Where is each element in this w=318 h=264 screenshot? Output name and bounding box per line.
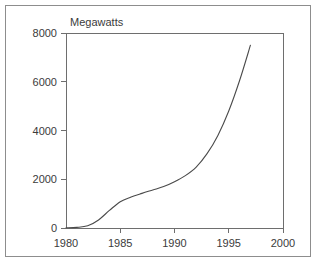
y-axis-title: Megawatts [70, 16, 124, 28]
axes-group [66, 33, 283, 228]
x-tick-label: 1990 [162, 237, 186, 249]
x-axis-tick-labels: 19801985199019952000 [54, 237, 295, 249]
line-chart: 02000400060008000 19801985199019952000 M… [0, 0, 318, 264]
y-tick-label: 0 [51, 222, 57, 234]
y-axis-tick-labels: 02000400060008000 [33, 27, 57, 234]
y-tick-label: 2000 [33, 173, 57, 185]
y-tick-label: 6000 [33, 76, 57, 88]
data-series-group [66, 45, 250, 228]
x-tick-label: 1995 [217, 237, 241, 249]
y-tick-label: 4000 [33, 125, 57, 137]
x-tick-label: 2000 [271, 237, 295, 249]
chart-page: 02000400060008000 19801985199019952000 M… [0, 0, 318, 264]
x-tick-label: 1985 [108, 237, 132, 249]
x-axis-ticks [120, 228, 283, 233]
x-tick-label: 1980 [54, 237, 78, 249]
axis-lines [66, 33, 283, 228]
series-line-installed-capacity [66, 45, 250, 228]
y-axis-ticks [61, 33, 66, 228]
y-tick-label: 8000 [33, 27, 57, 39]
